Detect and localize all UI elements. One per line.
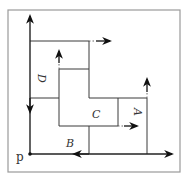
region-a-label: A (131, 107, 144, 116)
region-d-label: D (35, 73, 48, 83)
outer-frame (8, 10, 180, 172)
origin-point (28, 152, 32, 156)
diagram-canvas: p D C B A (0, 0, 187, 180)
origin-label: p (16, 150, 24, 164)
region-b-label: B (65, 137, 74, 150)
region-c-label: C (92, 108, 101, 121)
